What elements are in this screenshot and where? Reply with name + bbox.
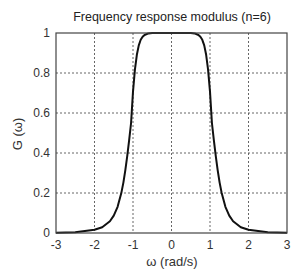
x-tick-label: 3	[284, 238, 291, 252]
x-tick-label: -3	[51, 238, 62, 252]
y-tick-label: 0.8	[33, 66, 50, 80]
x-tick-label: 2	[245, 238, 252, 252]
x-tick-label: 1	[207, 238, 214, 252]
x-axis-label: ω (rad/s)	[146, 254, 197, 269]
frequency-response-chart: Frequency response modulus (n=6) -3-2-10…	[0, 0, 305, 277]
y-tick-label: 0.4	[33, 146, 50, 160]
y-axis-ticks: 00.20.40.60.81	[33, 26, 50, 240]
x-axis-ticks: -3-2-10123	[51, 238, 291, 252]
grid-lines	[56, 33, 287, 233]
x-tick-label: -1	[128, 238, 139, 252]
y-tick-label: 0	[43, 226, 50, 240]
x-tick-label: 0	[168, 238, 175, 252]
y-tick-label: 0.6	[33, 106, 50, 120]
y-axis-label: G (ω)	[10, 118, 25, 151]
chart-title: Frequency response modulus (n=6)	[73, 10, 271, 24]
x-tick-label: -2	[89, 238, 100, 252]
y-tick-label: 1	[43, 26, 50, 40]
y-tick-label: 0.2	[33, 186, 50, 200]
